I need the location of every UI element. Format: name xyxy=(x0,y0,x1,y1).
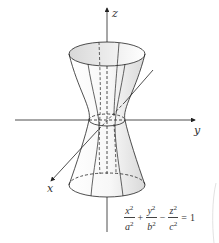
equals-operator: = xyxy=(180,212,188,223)
page-edge xyxy=(213,183,216,243)
equation-rhs: 1 xyxy=(190,212,195,223)
fraction-x: x2 a2 xyxy=(124,203,135,232)
minus-operator: − xyxy=(159,212,167,223)
plus-operator: + xyxy=(137,212,145,223)
y-axis-label: y xyxy=(193,124,201,137)
z-axis-label: z xyxy=(111,7,118,20)
fraction-z: z2 c2 xyxy=(168,203,178,232)
hyperboloid-surface xyxy=(69,54,145,197)
x-axis-label: x xyxy=(47,182,54,195)
equation: x2 a2 + y2 b2 − z2 c2 = 1 xyxy=(124,203,195,232)
fraction-y: y2 b2 xyxy=(146,203,157,232)
top-ellipse xyxy=(69,42,145,66)
